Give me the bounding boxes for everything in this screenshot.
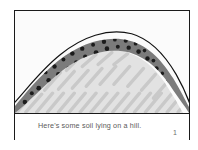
rock-particle <box>80 46 84 50</box>
rock-particle <box>116 45 120 49</box>
rock-particle <box>152 59 156 63</box>
hill-cross-section-diagram <box>15 11 189 113</box>
rock-particle <box>61 58 65 62</box>
rock-particle <box>143 49 147 53</box>
rock-particle <box>145 56 149 60</box>
rock-particle <box>36 86 41 91</box>
figure-page: Here's some soil lying on a hill. 1 <box>0 0 198 150</box>
figure-caption: Here's some soil lying on a hill. <box>38 121 141 130</box>
rock-particle <box>136 49 141 54</box>
illustration-panel <box>15 11 189 114</box>
rock-particle <box>30 91 34 95</box>
caption-strip: Here's some soil lying on a hill. 1 <box>15 114 189 140</box>
rock-particle <box>91 43 95 47</box>
rock-particle <box>102 40 106 44</box>
rock-particle <box>127 45 131 49</box>
page-number: 1 <box>173 129 177 136</box>
figure-frame: Here's some soil lying on a hill. 1 <box>14 10 190 140</box>
rock-particle <box>105 46 110 51</box>
